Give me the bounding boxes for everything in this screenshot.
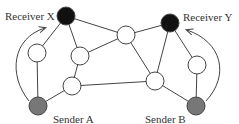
sender-label-sb: Sender B <box>145 113 186 124</box>
router-node-n1 <box>117 26 135 44</box>
sender-node-sa <box>29 97 47 115</box>
receiver-label-ry: Receiver Y <box>183 11 232 23</box>
edge-n4-n5 <box>72 81 155 86</box>
router-node-n6 <box>188 56 206 74</box>
receiver-node-ry <box>161 14 179 32</box>
nodes-layer <box>28 7 206 115</box>
sender-node-sb <box>187 97 205 115</box>
router-node-n5 <box>146 72 164 90</box>
arrow-sa-to-rx <box>16 28 45 101</box>
router-node-n4 <box>63 77 81 95</box>
network-diagram-canvas: Receiver XReceiver YSender ASender B <box>0 0 239 124</box>
receiver-node-rx <box>57 7 75 25</box>
network-diagram: Receiver XReceiver YSender ASender B <box>0 0 239 124</box>
router-node-n2 <box>28 44 46 62</box>
sender-label-sa: Sender A <box>53 113 94 124</box>
router-node-n3 <box>71 47 89 65</box>
receiver-label-rx: Receiver X <box>5 10 55 22</box>
